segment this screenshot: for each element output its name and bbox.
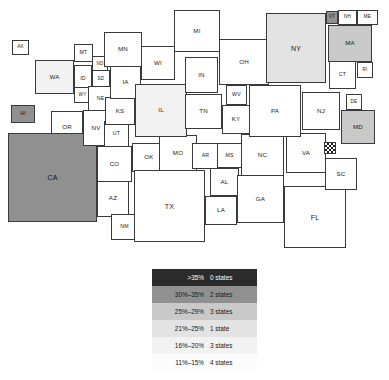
legend-count-label: 1 state	[210, 325, 253, 332]
state-ky[interactable]: KY	[222, 105, 250, 134]
legend-row: >35%0 states	[152, 269, 257, 286]
legend-count-label: 3 states	[210, 342, 253, 349]
state-tx[interactable]: TX	[134, 170, 205, 242]
state-ar[interactable]: AR	[192, 143, 219, 169]
state-ak[interactable]: AK	[12, 40, 29, 55]
state-ri[interactable]: RI	[357, 62, 373, 78]
state-ca[interactable]: CA	[8, 133, 97, 222]
state-va[interactable]: VA	[286, 133, 326, 173]
us-cartogram-map: AKHIWAORCANVIDMTWYUTAZNMCONDSDNEKSOKTXMN…	[0, 0, 389, 268]
state-me[interactable]: ME	[357, 10, 378, 25]
legend-row: 11%–15%4 states	[152, 354, 257, 371]
state-sc[interactable]: SC	[325, 158, 357, 190]
legend-count-label: 2 states	[210, 291, 253, 298]
state-vt[interactable]: VT	[326, 11, 338, 24]
state-wa[interactable]: WA	[35, 60, 74, 94]
state-co[interactable]: CO	[97, 146, 132, 182]
state-oh[interactable]: OH	[219, 39, 269, 85]
state-ks[interactable]: KS	[105, 97, 135, 125]
state-la[interactable]: LA	[205, 196, 237, 225]
state-wv[interactable]: WV	[226, 85, 247, 105]
state-ma[interactable]: MA	[328, 25, 372, 62]
legend-count-label: 0 states	[210, 274, 253, 281]
state-az[interactable]: AZ	[97, 180, 129, 217]
state-nj[interactable]: NJ	[302, 92, 340, 130]
state-md[interactable]: MD	[341, 110, 375, 144]
state-al[interactable]: AL	[210, 168, 239, 196]
state-ms[interactable]: MS	[217, 143, 242, 168]
state-il[interactable]: IL	[135, 84, 187, 137]
legend-range-label: 21%–25%	[152, 325, 210, 332]
state-fl[interactable]: FL	[284, 186, 346, 248]
legend-range-label: 16%–20%	[152, 342, 210, 349]
state-wi[interactable]: WI	[141, 46, 175, 80]
state-in[interactable]: IN	[185, 57, 218, 93]
state-tn[interactable]: TN	[185, 94, 222, 129]
state-ga[interactable]: GA	[237, 175, 284, 223]
legend-count-label: 3 states	[210, 308, 253, 315]
state-hi[interactable]: HI	[11, 105, 35, 123]
legend-range-label: 11%–15%	[152, 359, 210, 366]
state-ny[interactable]: NY	[266, 13, 326, 83]
legend-row: 25%–29%3 states	[152, 303, 257, 320]
legend-count-label: 4 states	[210, 359, 253, 366]
state-dc[interactable]	[324, 142, 336, 154]
legend-range-label: 25%–29%	[152, 308, 210, 315]
state-mn[interactable]: MN	[104, 32, 142, 67]
state-pa[interactable]: PA	[249, 85, 301, 137]
legend-row: 16%–20%3 states	[152, 337, 257, 354]
legend-row: 21%–25%1 state	[152, 320, 257, 337]
state-nc[interactable]: NC	[241, 134, 284, 176]
legend-range-label: 30%–35%	[152, 291, 210, 298]
state-nh[interactable]: NH	[338, 10, 357, 25]
legend-range-label: >35%	[152, 274, 210, 281]
map-legend: >35%0 states30%–35%2 states25%–29%3 stat…	[152, 269, 257, 371]
legend-row: 30%–35%2 states	[152, 286, 257, 303]
state-mi[interactable]: MI	[174, 10, 220, 52]
state-ct[interactable]: CT	[329, 61, 356, 89]
state-mt[interactable]: MT	[74, 44, 93, 62]
state-de[interactable]: DE	[346, 94, 362, 110]
